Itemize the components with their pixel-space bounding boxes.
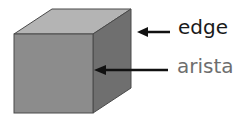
edge-arrow	[137, 27, 170, 37]
cube-front-face	[14, 34, 93, 113]
cube-edge-diagram: edge arista	[0, 0, 247, 120]
arista-label: arista	[177, 56, 234, 76]
edge-label: edge	[178, 17, 228, 37]
